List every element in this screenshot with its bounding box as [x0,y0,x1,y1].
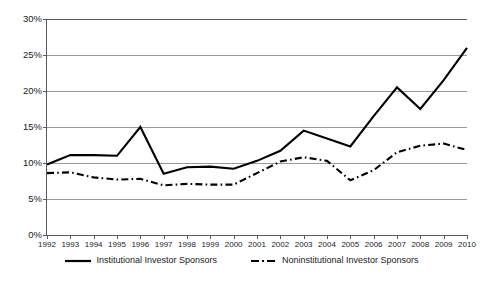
legend-item-institutional: Institutional Investor Sponsors [65,255,217,266]
x-tick-mark [350,235,351,239]
solid-line-swatch [65,256,91,266]
x-axis-labels: 1992199319941995199619971998199920002001… [0,238,484,256]
dash-dot-line-swatch [251,256,277,266]
x-tick-mark [304,235,305,239]
x-tick-mark [280,235,281,239]
x-tick-mark [140,235,141,239]
x-tick-mark [164,235,165,239]
x-tick-mark [444,235,445,239]
chart-legend: Institutional Investor Sponsors Noninsti… [0,255,484,266]
series-line-noninstitutional [47,144,467,186]
legend-label-institutional: Institutional Investor Sponsors [96,255,217,266]
x-tick-mark [420,235,421,239]
series-line-institutional [47,48,467,174]
legend-item-noninstitutional: Noninstitutional Investor Sponsors [251,255,419,266]
x-tick-mark [374,235,375,239]
x-tick-mark [70,235,71,239]
line-chart: 30%25%20%15%10%5%0% 19921993199419951996… [0,0,484,283]
x-tick-mark [234,235,235,239]
x-tick-mark [117,235,118,239]
x-tick-mark [467,235,468,239]
x-tick-mark [257,235,258,239]
x-tick-mark [187,235,188,239]
x-tick-mark [327,235,328,239]
x-tick-label: 2010 [452,240,482,250]
x-tick-mark [210,235,211,239]
legend-label-noninstitutional: Noninstitutional Investor Sponsors [282,255,419,266]
x-tick-mark [397,235,398,239]
x-tick-mark [94,235,95,239]
x-tick-mark [47,235,48,239]
